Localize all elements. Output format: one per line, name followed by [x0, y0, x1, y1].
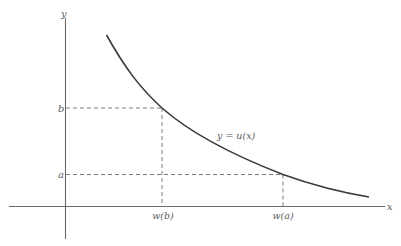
- curve-label: y = u(x): [216, 130, 256, 141]
- a-tick-label: a: [58, 169, 64, 180]
- w-b-tick-label: w(b): [152, 210, 174, 221]
- function-diagram: y x b a w(b) w(a) y = u(x): [0, 0, 401, 246]
- x-axis-label: x: [387, 201, 393, 212]
- w-a-tick-label: w(a): [272, 210, 294, 221]
- utility-curve: [107, 35, 370, 197]
- b-tick-label: b: [58, 103, 64, 114]
- y-axis-label: y: [60, 8, 67, 19]
